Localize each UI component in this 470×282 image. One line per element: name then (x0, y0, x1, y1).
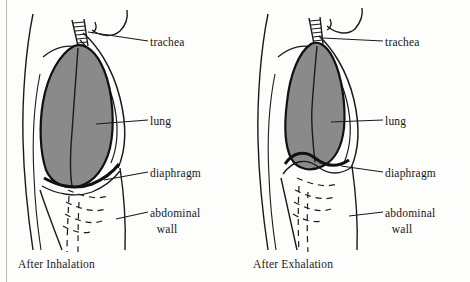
leader-line-abdominal-wall (116, 212, 148, 219)
trachea-left-wall (309, 18, 314, 44)
abdominal-organ-dashed-lines (63, 190, 108, 252)
label-lung: lung (150, 114, 171, 130)
leader-line-abdominal-wall (349, 212, 383, 216)
label-diaphragm: diaphragm (150, 166, 201, 182)
diagram-page: trachea lung diaphragm abdominal wall Af… (0, 0, 470, 282)
body-outline-outer (258, 14, 268, 250)
label-abdominal-wall-line2: wall (385, 222, 435, 238)
body-outline-outer (23, 14, 33, 250)
leader-line-trachea (323, 38, 383, 41)
chin-neck-curve (327, 8, 362, 33)
caption-after-exhalation: After Exhalation (253, 258, 333, 270)
label-trachea: trachea (150, 35, 185, 51)
label-abdominal-wall: abdominal wall (150, 206, 200, 237)
abdominal-wall-outline (120, 168, 125, 250)
label-abdominal-wall: abdominal wall (385, 206, 435, 237)
abdominal-wall-left (40, 190, 62, 250)
label-abdominal-wall-line1: abdominal (150, 207, 200, 219)
panel-after-inhalation: trachea lung diaphragm abdominal wall Af… (0, 0, 235, 282)
trachea-left-wall (72, 20, 78, 46)
label-abdominal-wall-line1: abdominal (385, 207, 435, 219)
chin-neck-curve (92, 10, 127, 35)
body-outline-inner (33, 74, 41, 250)
abdominal-organ-dashed-lines (293, 178, 337, 252)
label-abdominal-wall-line2: wall (150, 222, 200, 238)
body-outline-inner (268, 74, 276, 250)
caption-after-inhalation: After Inhalation (18, 258, 95, 270)
leader-line-diaphragm (341, 166, 383, 172)
label-trachea: trachea (385, 35, 420, 51)
label-diaphragm: diaphragm (385, 166, 436, 182)
abdominal-wall-outline (352, 166, 357, 250)
abdominal-wall-left (281, 178, 297, 250)
panel-after-exhalation: trachea lung diaphragm abdominal wall Af… (235, 0, 470, 282)
label-lung: lung (385, 114, 406, 130)
neck-front-curve (92, 22, 96, 33)
